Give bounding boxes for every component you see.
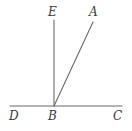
ray-BA — [54, 22, 93, 106]
point-label-a: A — [89, 6, 98, 18]
point-label-c: C — [113, 110, 122, 122]
point-label-e: E — [48, 6, 57, 18]
geometry-figure: E A D B C — [0, 0, 132, 131]
point-label-d: D — [9, 110, 19, 122]
point-label-b: B — [48, 110, 57, 122]
